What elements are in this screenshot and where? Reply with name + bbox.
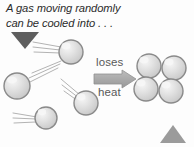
trail-line [13, 113, 37, 117]
gas-sphere [4, 73, 30, 99]
solid-sphere [159, 79, 183, 103]
trail-line [32, 61, 61, 73]
trail-line [34, 52, 60, 53]
trail-line [14, 122, 36, 123]
trail-line [33, 47, 60, 50]
sphere-highlight [77, 94, 86, 101]
sphere-highlight [164, 59, 173, 66]
label-heat: heat [98, 86, 121, 98]
sphere-highlight [161, 82, 170, 89]
gas-particle-group [4, 40, 98, 129]
sphere-highlight [139, 57, 148, 64]
triangle-down-icon [11, 32, 39, 49]
gas-sphere [74, 91, 98, 115]
solid-sphere [162, 56, 186, 80]
solid-sphere [134, 77, 158, 101]
gas-sphere [35, 107, 57, 129]
solid-particle-group [134, 54, 186, 103]
slide-canvas: A gas moving randomly can be cooled into… [0, 0, 194, 147]
label-loses: loses [96, 56, 123, 68]
solid-sphere [137, 54, 161, 78]
sphere-highlight [62, 43, 71, 50]
slide-caption: A gas moving randomly can be cooled into… [6, 1, 136, 30]
sphere-highlight [38, 109, 46, 115]
triangle-up-icon [160, 125, 186, 143]
trail-line [29, 64, 60, 78]
sphere-highlight [7, 76, 17, 83]
trail-line [13, 118, 36, 119]
gas-sphere [59, 40, 83, 64]
trail-line [33, 42, 61, 47]
sphere-highlight [136, 80, 145, 87]
trail-line [28, 68, 58, 83]
